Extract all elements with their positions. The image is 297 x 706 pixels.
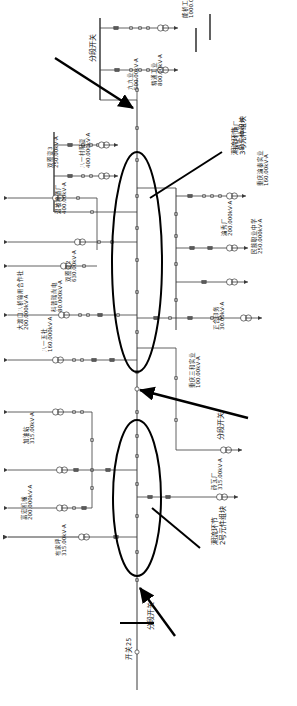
load-capacity: 800.00kV·A (158, 54, 164, 86)
load-capacity: 250.000kV·A (258, 218, 264, 254)
load-label: 重庆渝秦实业160.00kV·A (258, 150, 270, 186)
load-capacity: 200.000kV·A (228, 201, 234, 236)
load-label: 民族职业中学250.000kV·A (252, 218, 264, 254)
arrow-top (55, 58, 133, 108)
load-capacity: 160.000kV·A (48, 317, 54, 352)
load-capacity: 250.00kV·A (54, 136, 60, 168)
annotation-ann-top: 分段开关 (90, 34, 98, 62)
right-bus-upper (137, 188, 262, 330)
load-label: 九九业500.00kV·A (128, 58, 140, 90)
load-capacity: 100.00kV·A (196, 352, 202, 388)
load-label: 精通工业800.00kV·A (152, 54, 164, 86)
load-label: 加油站315.00kV·A (24, 412, 36, 444)
annotation-line: 分段开关 (90, 34, 98, 62)
load-label: 八一五社160.000kV·A (42, 317, 54, 352)
load-capacity: 200.000kV·A (24, 270, 30, 330)
load-label: 砖瓦厂315.00kV·A (212, 458, 224, 490)
arrow-bottom (140, 588, 175, 636)
annotation-line: 3号元件组块 (240, 116, 248, 155)
load-label: 渝秀厂200.000kV·A (222, 201, 234, 236)
load-label: 双圈变3250.00kV·A (48, 136, 60, 168)
annotation-line: 2号元件组块 (220, 506, 228, 545)
diagram-canvas: 能桥工1000.0kV·A精通工业800.00kV·A九九业500.00kV·A… (0, 0, 297, 706)
annotation-ann-block2: 潮流环节2号元件组块 (212, 506, 227, 545)
arrow-mid (140, 390, 248, 418)
load-capacity: 200.000kV·A (28, 485, 34, 520)
load-label: 双圈变2630.00kV·A (66, 250, 78, 282)
left-feeder-group (8, 312, 137, 508)
annotation-line: 分段开关 (218, 412, 226, 440)
load-capacity: 315.00kV·A (62, 524, 68, 556)
load-capacity: 400.00kV·A (62, 182, 68, 214)
load-label: 能桥工1000.0kV·A (183, 0, 195, 18)
load-label: 八一村阳变400.000kV·A (80, 133, 92, 168)
load-label: 正合印务30.00kV·A (214, 302, 226, 330)
load-capacity: 315.00kV·A (30, 412, 36, 444)
load-capacity: 30.00kV·A (220, 302, 226, 330)
annotation-ann-block3: 潮流环节3号元件组块 (232, 116, 247, 155)
load-capacity: 160.00kV·A (264, 150, 270, 186)
annotation-line: 分段开关 (148, 602, 156, 630)
load-label: 科普瑞尚电80.000kV·A (52, 280, 64, 312)
load-capacity: 500.00kV·A (134, 58, 140, 90)
single-line-diagram (0, 0, 297, 706)
load-label: 大渡口八桥输用合作社200.000kV·A (18, 270, 30, 330)
annotation-ann-mid: 分段开关 (218, 412, 226, 440)
feeder-label-sw25: 开关25 (126, 638, 133, 660)
arrow-block3 (150, 152, 222, 198)
load-capacity: 80.000kV·A (58, 280, 64, 312)
load-capacity: 1000.0kV·A (189, 0, 195, 18)
load-label: 富宏机械200.000kV·A (22, 485, 34, 520)
load-label: 布家坪315.00kV·A (56, 524, 68, 556)
load-label: 重庆三和实业100.00kV·A (190, 352, 202, 388)
right-brickworks-group (137, 494, 238, 500)
load-capacity: 630.00kV·A (72, 250, 78, 282)
annotation-ann-bottom: 分段开关 (148, 602, 156, 630)
load-capacity: 315.00kV·A (218, 458, 224, 490)
load-label: 温被啤酒厂400.00kV·A (56, 182, 68, 214)
load-capacity: 400.000kV·A (86, 133, 92, 168)
